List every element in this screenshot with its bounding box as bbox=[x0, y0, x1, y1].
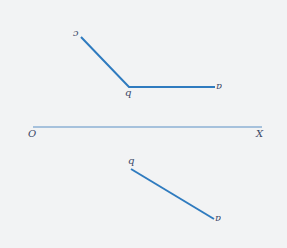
axis-end-label: X bbox=[256, 129, 263, 139]
top-view-polyline bbox=[81, 37, 215, 87]
projection-diagram bbox=[0, 0, 287, 248]
label-b-top: b bbox=[125, 89, 131, 99]
label-b-bottom: b bbox=[128, 157, 134, 167]
axis-origin-label: O bbox=[28, 129, 36, 139]
label-c-top: c bbox=[73, 29, 79, 39]
label-a-bottom: a bbox=[215, 214, 221, 224]
label-a-top: a bbox=[216, 82, 222, 92]
bottom-view-line bbox=[131, 169, 214, 219]
